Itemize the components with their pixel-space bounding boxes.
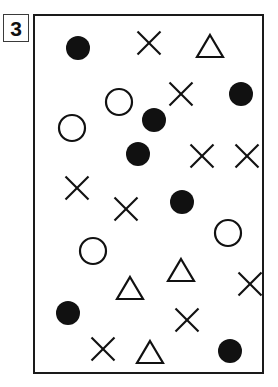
panel-number: 3 <box>10 18 22 39</box>
panel-number-box: 3 <box>3 14 29 42</box>
triangle-icon <box>195 33 225 59</box>
x-mark-icon <box>136 30 163 57</box>
symbol-layer <box>35 16 262 372</box>
filled-circle-icon <box>124 140 152 168</box>
filled-circle-icon <box>168 188 196 216</box>
panel-stage: 3 <box>0 0 278 387</box>
x-mark-icon <box>64 175 91 202</box>
open-circle-icon <box>212 217 244 249</box>
x-mark-icon <box>189 143 216 170</box>
filled-circle-icon <box>227 80 255 108</box>
open-circle-icon <box>103 86 135 118</box>
triangle-icon <box>135 339 165 365</box>
x-mark-icon <box>113 196 140 223</box>
open-circle-icon <box>56 112 88 144</box>
x-mark-icon <box>168 81 195 108</box>
x-mark-icon <box>234 143 261 170</box>
triangle-icon <box>166 257 196 283</box>
x-mark-icon <box>90 336 117 363</box>
filled-circle-icon <box>54 299 82 327</box>
filled-circle-icon <box>140 106 168 134</box>
symbol-panel-frame <box>33 14 264 374</box>
filled-circle-icon <box>216 337 244 365</box>
x-mark-icon <box>237 271 264 298</box>
open-circle-icon <box>77 235 109 267</box>
x-mark-icon <box>174 307 201 334</box>
filled-circle-icon <box>64 34 92 62</box>
triangle-icon <box>115 275 145 301</box>
